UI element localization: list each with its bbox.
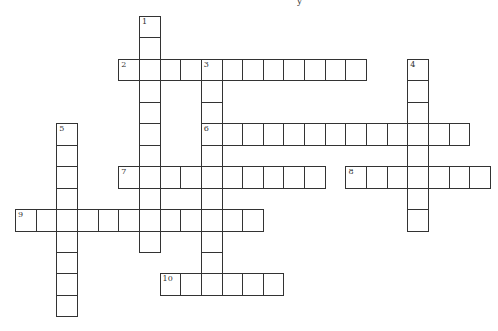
crossword-cell[interactable] bbox=[139, 123, 161, 146]
clue-number: 4 bbox=[410, 61, 415, 69]
clue-number: 2 bbox=[121, 61, 126, 69]
crossword-cell[interactable] bbox=[139, 102, 161, 125]
crossword-cell[interactable] bbox=[407, 166, 429, 189]
crossword-cell[interactable] bbox=[201, 231, 223, 254]
crossword-cell[interactable] bbox=[56, 252, 78, 275]
crossword-cell[interactable] bbox=[201, 145, 223, 168]
crossword-cell[interactable] bbox=[139, 80, 161, 103]
crossword-cell[interactable] bbox=[428, 166, 450, 189]
crossword-cell[interactable] bbox=[345, 59, 367, 82]
crossword-cell[interactable] bbox=[449, 123, 471, 146]
crossword-cell[interactable] bbox=[325, 59, 347, 82]
crossword-cell[interactable]: 5 bbox=[56, 123, 78, 146]
crossword-cell[interactable] bbox=[345, 123, 367, 146]
crossword-cell[interactable]: 9 bbox=[15, 209, 37, 232]
crossword-cell[interactable] bbox=[201, 252, 223, 275]
crossword-cell[interactable] bbox=[139, 188, 161, 211]
crossword-cell[interactable] bbox=[201, 209, 223, 232]
crossword-cell[interactable] bbox=[242, 209, 264, 232]
crossword-cell[interactable] bbox=[180, 273, 202, 296]
crossword-cell[interactable] bbox=[263, 166, 285, 189]
crossword-cell[interactable]: 3 bbox=[201, 59, 223, 82]
crossword-cell[interactable]: 4 bbox=[407, 59, 429, 82]
crossword-cell[interactable] bbox=[263, 123, 285, 146]
crossword-cell[interactable] bbox=[283, 123, 305, 146]
crossword-cell[interactable]: 2 bbox=[118, 59, 140, 82]
crossword-cell[interactable] bbox=[407, 209, 429, 232]
crossword-cell[interactable] bbox=[56, 145, 78, 168]
clue-number: 3 bbox=[204, 61, 209, 69]
crossword-cell[interactable] bbox=[139, 59, 161, 82]
crossword-cell[interactable] bbox=[56, 209, 78, 232]
crossword-cell[interactable] bbox=[222, 123, 244, 146]
crossword-cell[interactable] bbox=[139, 166, 161, 189]
crossword-cell[interactable] bbox=[201, 188, 223, 211]
crossword-cell[interactable] bbox=[407, 188, 429, 211]
clue-number: 5 bbox=[59, 125, 64, 133]
crossword-cell[interactable] bbox=[242, 123, 264, 146]
crossword-cell[interactable] bbox=[139, 209, 161, 232]
crossword-cell[interactable] bbox=[180, 59, 202, 82]
clue-number: 7 bbox=[121, 168, 126, 176]
crossword-cell[interactable] bbox=[449, 166, 471, 189]
crossword-cell[interactable] bbox=[56, 273, 78, 296]
crossword-cell[interactable] bbox=[201, 80, 223, 103]
crossword-cell[interactable] bbox=[242, 273, 264, 296]
crossword-cell[interactable]: 6 bbox=[201, 123, 223, 146]
crossword-cell[interactable] bbox=[222, 166, 244, 189]
crossword-cell[interactable] bbox=[36, 209, 58, 232]
clue-number: 8 bbox=[348, 168, 353, 176]
crossword-cell[interactable] bbox=[118, 209, 140, 232]
crossword-cell[interactable] bbox=[366, 166, 388, 189]
crossword-cell[interactable] bbox=[407, 145, 429, 168]
crossword-cell[interactable] bbox=[139, 145, 161, 168]
crossword-cell[interactable] bbox=[304, 123, 326, 146]
crossword-cell[interactable] bbox=[242, 166, 264, 189]
crossword-cell[interactable] bbox=[428, 123, 450, 146]
crossword-cell[interactable]: 8 bbox=[345, 166, 367, 189]
crossword-cell[interactable] bbox=[160, 59, 182, 82]
crossword-cell[interactable] bbox=[283, 166, 305, 189]
crossword-cell[interactable] bbox=[242, 59, 264, 82]
crossword-cell[interactable] bbox=[222, 209, 244, 232]
crossword-cell[interactable] bbox=[387, 166, 409, 189]
crossword-cell[interactable] bbox=[407, 102, 429, 125]
crossword-cell[interactable] bbox=[180, 166, 202, 189]
crossword-cell[interactable] bbox=[387, 123, 409, 146]
crossword-cell[interactable] bbox=[139, 37, 161, 60]
crossword-cell[interactable] bbox=[407, 80, 429, 103]
title-fragment: y bbox=[297, 0, 302, 6]
crossword-cell[interactable] bbox=[201, 102, 223, 125]
crossword-cell[interactable] bbox=[139, 231, 161, 254]
crossword-cell[interactable] bbox=[160, 166, 182, 189]
clue-number: 9 bbox=[18, 211, 23, 219]
crossword-cell[interactable] bbox=[56, 295, 78, 318]
crossword-cell[interactable] bbox=[77, 209, 99, 232]
crossword-cell[interactable] bbox=[98, 209, 120, 232]
crossword-cell[interactable] bbox=[201, 273, 223, 296]
crossword-cell[interactable] bbox=[56, 231, 78, 254]
crossword-cell[interactable] bbox=[304, 166, 326, 189]
crossword-cell[interactable] bbox=[56, 188, 78, 211]
crossword-cell[interactable] bbox=[56, 166, 78, 189]
crossword-cell[interactable] bbox=[180, 209, 202, 232]
crossword-cell[interactable] bbox=[222, 273, 244, 296]
crossword-cell[interactable] bbox=[160, 209, 182, 232]
crossword-cell[interactable] bbox=[283, 59, 305, 82]
crossword-cell[interactable] bbox=[407, 123, 429, 146]
crossword-cell[interactable] bbox=[304, 59, 326, 82]
crossword-cell[interactable] bbox=[469, 166, 491, 189]
clue-number: 6 bbox=[204, 125, 209, 133]
clue-number: 10 bbox=[163, 275, 173, 283]
crossword-cell[interactable]: 7 bbox=[118, 166, 140, 189]
crossword-cell[interactable] bbox=[222, 59, 244, 82]
clue-number: 1 bbox=[142, 18, 147, 26]
crossword-cell[interactable] bbox=[325, 123, 347, 146]
crossword-cell[interactable] bbox=[366, 123, 388, 146]
crossword-cell[interactable] bbox=[263, 59, 285, 82]
crossword-grid: y 12364578910 bbox=[0, 0, 498, 331]
crossword-cell[interactable]: 10 bbox=[160, 273, 182, 296]
crossword-cell[interactable] bbox=[263, 273, 285, 296]
crossword-cell[interactable] bbox=[201, 166, 223, 189]
crossword-cell[interactable]: 1 bbox=[139, 16, 161, 39]
